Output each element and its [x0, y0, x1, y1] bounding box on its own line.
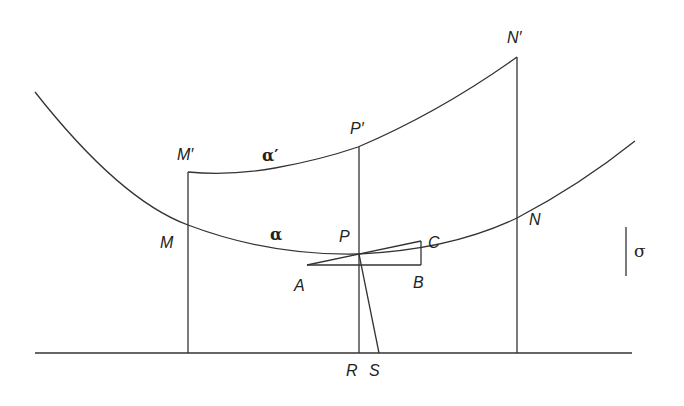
label-p: P: [339, 229, 350, 245]
label-b: B: [413, 275, 424, 291]
slanted-line-ps: [359, 254, 379, 353]
upper-curve: [188, 57, 517, 173]
label-n-prime: N′: [507, 30, 522, 46]
label-m-prime: M′: [177, 147, 193, 163]
label-alpha: α: [270, 227, 282, 243]
label-p-prime: P′: [350, 121, 364, 137]
lower-curve: [35, 92, 635, 254]
label-s: S: [369, 363, 380, 379]
label-n: N: [529, 212, 541, 228]
diagram-canvas: N′ P′ M′ α′ M α P C N A B R S σ: [0, 0, 684, 406]
label-m: M: [160, 235, 173, 251]
diagram-lines: [0, 0, 684, 406]
label-a: A: [294, 278, 305, 294]
label-c: C: [428, 235, 440, 251]
label-alpha-prime: α′: [262, 148, 279, 164]
label-sigma: σ: [634, 243, 646, 260]
label-r: R: [346, 363, 358, 379]
